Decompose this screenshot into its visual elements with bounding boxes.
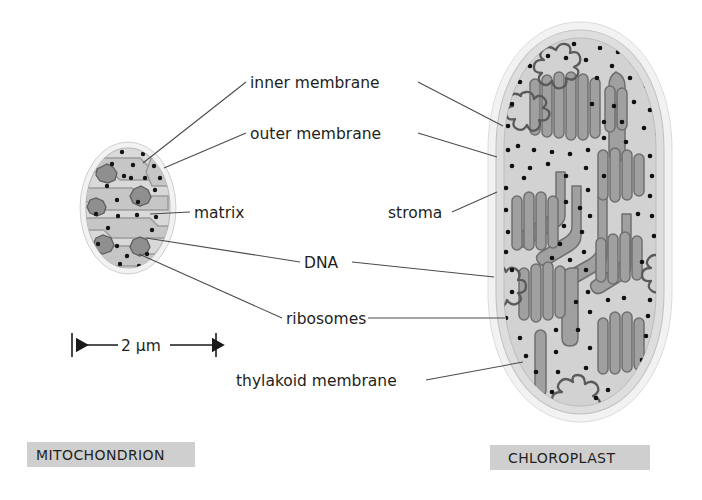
label-matrix: matrix — [194, 204, 245, 222]
label-ribosomes: ribosomes — [286, 310, 366, 328]
chloroplast-illustration — [484, 22, 687, 422]
caption-label-chloroplast: CHLOROPLAST — [508, 450, 615, 466]
scale-bar-label: 2 µm — [121, 337, 161, 355]
mitochondrion-illustration — [80, 142, 176, 274]
caption-mitochondrion: MITOCHONDRION — [27, 442, 195, 467]
label-thylakoid-membrane: thylakoid membrane — [236, 372, 397, 390]
diagram-canvas: inner membrane outer membrane matrix DNA… — [0, 0, 702, 500]
label-dna: DNA — [304, 254, 339, 272]
label-inner-membrane: inner membrane — [250, 74, 380, 92]
label-outer-membrane: outer membrane — [250, 125, 381, 143]
caption-chloroplast: CHLOROPLAST — [490, 445, 650, 470]
label-stroma: stroma — [388, 204, 442, 222]
caption-label-mitochondrion: MITOCHONDRION — [36, 447, 165, 463]
thylakoid-single — [535, 330, 546, 396]
